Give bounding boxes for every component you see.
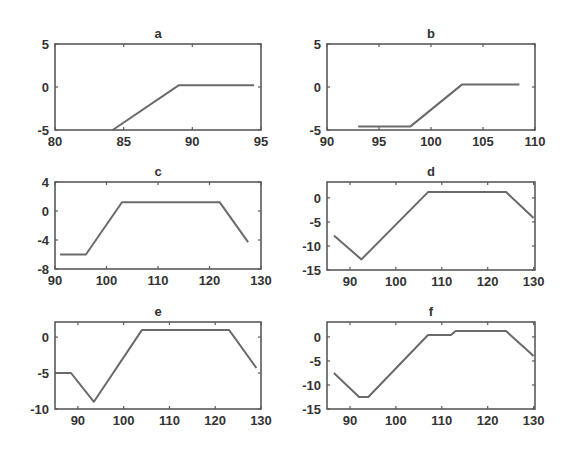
x-tick-label: 105 — [472, 134, 494, 149]
subplot-title: f — [429, 304, 434, 319]
x-tick-label: 85 — [116, 134, 130, 149]
axes-frame — [327, 44, 535, 130]
x-tick-label: 95 — [254, 134, 268, 149]
series-line-e — [55, 330, 256, 402]
x-tick-label: 130 — [250, 273, 272, 288]
subplot-f: f90100110120130-15-10-50 — [302, 304, 544, 428]
y-tick-label: -5 — [37, 123, 49, 138]
figure-panels: a80859095-505b9095100105110-505c90100110… — [0, 0, 576, 458]
x-tick-label: 100 — [420, 134, 442, 149]
subplot-title: c — [154, 164, 161, 179]
y-tick-label: -5 — [309, 215, 321, 230]
subplot-title: e — [154, 304, 161, 319]
x-tick-label: 110 — [148, 273, 169, 288]
subplot-title: b — [427, 26, 435, 41]
subplot-c: c90100110120130-8-404 — [37, 164, 271, 288]
y-tick-label: 0 — [314, 330, 321, 345]
x-tick-label: 95 — [372, 134, 386, 149]
y-tick-label: -10 — [302, 239, 321, 254]
x-tick-label: 90 — [71, 413, 85, 428]
y-tick-label: -15 — [302, 263, 321, 278]
x-tick-label: 120 — [204, 413, 226, 428]
x-tick-label: 120 — [477, 274, 499, 289]
x-tick-label: 90 — [320, 134, 334, 149]
series-line-d — [334, 192, 534, 259]
x-tick-label: 90 — [343, 274, 357, 289]
y-tick-label: -5 — [37, 366, 49, 381]
y-tick-label: -4 — [37, 233, 49, 248]
y-tick-label: -10 — [30, 402, 49, 417]
series-line-c — [60, 202, 248, 254]
axes-frame — [55, 182, 261, 269]
series-line-a — [113, 85, 254, 130]
x-tick-label: 90 — [48, 273, 62, 288]
y-tick-label: -15 — [302, 402, 321, 417]
y-tick-label: 5 — [42, 37, 49, 52]
subplot-title: d — [427, 164, 435, 179]
x-tick-label: 100 — [385, 274, 407, 289]
x-tick-label: 130 — [523, 274, 545, 289]
subplot-title: a — [154, 26, 162, 41]
x-tick-label: 90 — [185, 134, 199, 149]
x-tick-label: 120 — [477, 413, 499, 428]
x-tick-label: 90 — [343, 413, 357, 428]
axes-frame — [55, 44, 261, 130]
subplot-a: a80859095-505 — [37, 26, 268, 149]
y-tick-label: 4 — [42, 175, 50, 190]
x-tick-label: 100 — [96, 273, 118, 288]
subplot-b: b9095100105110-505 — [309, 26, 545, 149]
x-tick-label: 110 — [431, 413, 452, 428]
y-tick-label: -5 — [309, 123, 321, 138]
x-tick-label: 130 — [250, 413, 272, 428]
y-tick-label: 0 — [42, 330, 49, 345]
x-tick-label: 110 — [431, 274, 452, 289]
series-line-b — [358, 84, 519, 126]
y-tick-label: -10 — [302, 378, 321, 393]
y-tick-label: 0 — [314, 191, 321, 206]
y-tick-label: 0 — [314, 80, 321, 95]
x-tick-label: 100 — [113, 413, 135, 428]
series-line-f — [334, 331, 534, 397]
x-tick-label: 120 — [199, 273, 221, 288]
x-tick-label: 130 — [523, 413, 545, 428]
x-tick-label: 110 — [525, 134, 546, 149]
x-tick-label: 80 — [48, 134, 62, 149]
y-tick-label: 0 — [42, 80, 49, 95]
axes-frame — [55, 322, 261, 409]
y-tick-label: 0 — [42, 204, 49, 219]
x-tick-label: 100 — [385, 413, 407, 428]
subplot-d: d90100110120130-15-10-50 — [302, 164, 544, 289]
subplot-e: e90100110120130-10-50 — [30, 304, 272, 428]
y-tick-label: -8 — [37, 262, 49, 277]
y-tick-label: -5 — [309, 354, 321, 369]
x-tick-label: 110 — [159, 413, 180, 428]
y-tick-label: 5 — [314, 37, 321, 52]
